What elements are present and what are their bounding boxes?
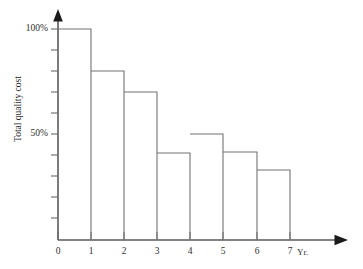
x-tick-label-2: 2 (117, 247, 131, 257)
chart-plot-area (0, 0, 363, 269)
x-tick-label-7: 7 (283, 247, 297, 257)
y-axis-title: Total quality cost (13, 49, 23, 169)
bar-year-7 (257, 170, 290, 240)
x-tick-label-0: 0 (51, 247, 65, 257)
bar-year-6 (223, 152, 257, 240)
bar-year-2 (91, 71, 124, 240)
x-tick-label-6: 6 (250, 247, 264, 257)
x-tick-label-3: 3 (150, 247, 164, 257)
bar-year-5 (190, 134, 223, 240)
x-tick-label-1: 1 (84, 247, 98, 257)
x-axis-arrow-icon (335, 235, 349, 245)
y-axis-arrow-icon (53, 9, 63, 22)
x-tick-label-5: 5 (216, 247, 230, 257)
bar-year-4 (157, 153, 190, 240)
bar-year-1 (58, 29, 91, 240)
x-axis-title: Yr. (297, 247, 308, 257)
y-tick-label-100: 100% (18, 24, 48, 34)
bar-year-3 (124, 92, 157, 240)
quality-cost-bar-chart: 100% 50% 0 1 2 3 4 5 6 7 Yr. Total quali… (0, 0, 363, 269)
x-tick-label-4: 4 (183, 247, 197, 257)
